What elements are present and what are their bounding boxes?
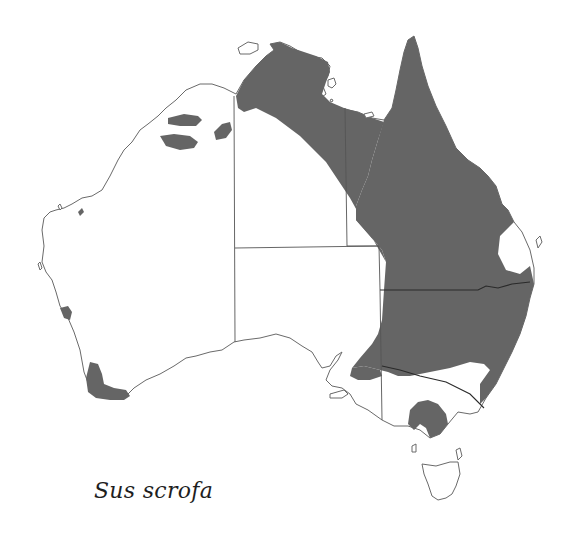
species-name-label: Sus scrofa [94, 478, 213, 503]
flinders-island [456, 448, 462, 460]
wa-shark-bay-island [38, 262, 42, 270]
kangaroo-island [330, 390, 348, 398]
melville-island [238, 42, 258, 54]
fraser-island [536, 236, 542, 248]
tasmania-coastline [422, 462, 460, 500]
mornington-island [364, 112, 374, 118]
king-island [412, 444, 416, 452]
range-eastern-australia [352, 36, 534, 404]
australia-distribution-map [0, 0, 578, 537]
small-island-gulf [330, 99, 333, 102]
groote-eylandt [328, 78, 336, 88]
